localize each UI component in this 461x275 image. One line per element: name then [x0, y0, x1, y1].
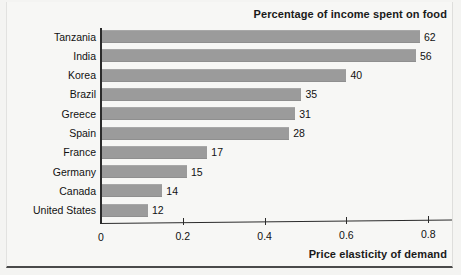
category-label: Spain — [6, 127, 96, 139]
bar — [101, 69, 346, 82]
x-axis-tick-label: 0.2 — [175, 230, 190, 242]
category-label: Tanzania — [6, 31, 96, 43]
category-label: India — [6, 50, 96, 62]
category-label: United States — [6, 204, 96, 216]
bar — [101, 107, 295, 120]
bar — [101, 49, 416, 62]
category-label: Canada — [6, 185, 96, 197]
chart-plot-area: Percentage of income spent on food Tanza… — [0, 0, 461, 275]
bar — [101, 165, 187, 178]
bar-value-label: 35 — [305, 88, 317, 100]
bar-series: 62564035312817151412 — [101, 0, 451, 275]
category-axis-labels: TanzaniaIndiaKoreaBrazilGreeceSpainFranc… — [4, 0, 96, 275]
bar-value-label: 62 — [424, 31, 436, 43]
category-label: France — [6, 146, 96, 158]
bar — [101, 146, 207, 159]
x-axis-tick — [346, 217, 347, 224]
bar — [101, 30, 420, 43]
category-label: Korea — [6, 69, 96, 81]
bar-value-label: 56 — [420, 50, 432, 62]
x-axis-title: Price elasticity of demand — [309, 248, 447, 260]
bar — [101, 184, 162, 197]
x-axis-tick-label: 0.6 — [339, 229, 354, 241]
figure: Percentage of income spent on food Tanza… — [0, 0, 461, 275]
category-label: Brazil — [6, 88, 96, 100]
x-axis-tick — [183, 218, 184, 225]
x-axis-tick-label: 0.8 — [421, 228, 436, 240]
bar — [101, 204, 148, 217]
category-label: Germany — [6, 166, 96, 178]
x-axis-tick-label: 0.4 — [257, 230, 272, 242]
bar-value-label: 40 — [350, 69, 362, 81]
bar-value-label: 14 — [166, 185, 178, 197]
bar — [101, 88, 301, 101]
x-axis-tick-label: 0 — [98, 231, 104, 243]
bar-value-label: 15 — [191, 166, 203, 178]
bar-value-label: 17 — [211, 146, 223, 158]
category-label: Greece — [6, 108, 96, 120]
bar-value-label: 31 — [299, 108, 311, 120]
bar-value-label: 28 — [293, 127, 305, 139]
y-axis-line — [100, 28, 102, 224]
x-axis-tick — [428, 216, 429, 223]
bar-value-label: 12 — [152, 204, 164, 216]
x-axis-tick — [265, 218, 266, 225]
bar — [101, 127, 289, 140]
